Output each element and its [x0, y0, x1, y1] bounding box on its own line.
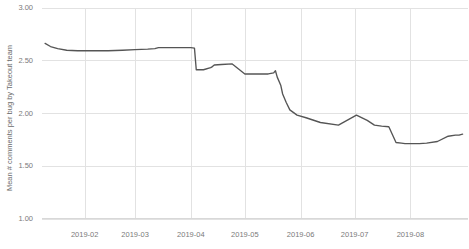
x-tick-label: 2019-05 [231, 230, 259, 239]
y-tick-labels: 3.002.502.001.501.00 [18, 3, 33, 223]
x-tick-label: 2019-02 [71, 230, 99, 239]
y-tick-label: 2.50 [18, 56, 33, 65]
data-series-line [45, 43, 463, 143]
line-chart: 3.002.502.001.501.00 2019-022019-032019-… [0, 0, 469, 249]
x-tick-label: 2019-08 [397, 230, 425, 239]
y-tick-label: 3.00 [18, 3, 33, 12]
x-tick-labels: 2019-022019-032019-042019-052019-062019-… [71, 230, 424, 239]
x-tick-label: 2019-04 [177, 230, 205, 239]
x-tick-label: 2019-03 [121, 230, 149, 239]
chart-canvas: 3.002.502.001.501.00 2019-022019-032019-… [0, 0, 469, 249]
y-tick-label: 2.00 [18, 109, 33, 118]
x-tick-label: 2019-06 [287, 230, 315, 239]
y-axis-title: Mean # comments per bug by Takeout team [5, 45, 14, 191]
x-tick-label: 2019-07 [341, 230, 369, 239]
y-tick-label: 1.50 [18, 161, 33, 170]
y-tick-label: 1.00 [18, 214, 33, 223]
y-gridlines [42, 9, 469, 220]
